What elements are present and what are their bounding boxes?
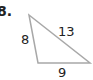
triangle-figure <box>0 0 93 80</box>
side-label-left: 8 <box>21 33 29 46</box>
triangle-shape <box>29 15 90 63</box>
side-label-hypotenuse: 13 <box>58 25 75 38</box>
side-label-bottom: 9 <box>58 66 66 79</box>
